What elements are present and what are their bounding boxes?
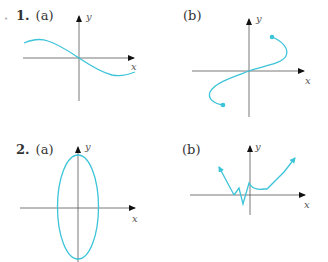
- x-axis-label: x: [305, 75, 311, 86]
- y-axis-label: y: [84, 141, 91, 152]
- graphs-canvas: x y x y x y x y: [0, 0, 328, 262]
- x-axis-label: x: [132, 213, 138, 224]
- x-axis-label: x: [131, 61, 137, 72]
- curve-left-branch: [219, 167, 234, 195]
- graph-1b: x y: [192, 13, 311, 117]
- y-axis-label: y: [255, 13, 262, 24]
- endpoint-dot: [221, 103, 226, 108]
- graph-2a: x y: [20, 141, 138, 262]
- x-axis-label: x: [304, 199, 310, 210]
- graph-2b: x y: [190, 141, 310, 215]
- y-axis-label: y: [85, 11, 92, 22]
- y-axis-label: y: [254, 141, 261, 152]
- curve: [24, 40, 135, 76]
- curve-right-branch: [234, 158, 295, 204]
- endpoint-dot: [270, 35, 275, 40]
- graph-1a: x y: [23, 11, 137, 101]
